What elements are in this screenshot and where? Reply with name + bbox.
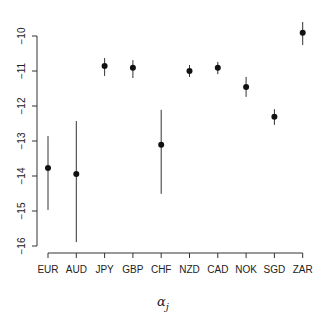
point-range-eur <box>45 136 51 210</box>
x-tick-label: AUD <box>66 264 87 275</box>
y-tick-label: −16 <box>16 237 27 254</box>
x-tick-label: CAD <box>207 264 228 275</box>
point-marker <box>187 68 193 74</box>
point-marker <box>215 65 221 71</box>
point-marker <box>271 114 277 120</box>
point-range-nok <box>243 77 249 97</box>
point-range-jpy <box>102 58 108 76</box>
point-marker <box>243 84 249 90</box>
y-tick-label: −11 <box>16 62 27 79</box>
point-range-zar <box>300 22 306 45</box>
data-points <box>45 22 306 242</box>
point-marker <box>130 65 136 71</box>
x-axis: EURAUDJPYGBPCHFNZDCADNOKSGDZAR <box>37 253 312 275</box>
y-tick-label: −10 <box>16 27 27 44</box>
point-range-gbp <box>130 60 136 78</box>
point-range-chf <box>158 110 164 194</box>
x-tick-label: NOK <box>235 264 257 275</box>
x-tick-label: NZD <box>179 264 200 275</box>
x-axis-label: αj <box>157 294 169 312</box>
y-axis: −10−11−12−13−14−15−16 <box>16 27 37 254</box>
x-tick-label: GBP <box>122 264 143 275</box>
x-tick-label: CHF <box>151 264 172 275</box>
x-tick-label: SGD <box>264 264 286 275</box>
point-marker <box>158 142 164 148</box>
point-range-sgd <box>271 109 277 125</box>
point-marker <box>45 165 51 171</box>
x-tick-label: ZAR <box>293 264 313 275</box>
y-tick-label: −14 <box>16 167 27 184</box>
x-tick-label: EUR <box>37 264 58 275</box>
x-tick-label: JPY <box>95 264 114 275</box>
point-range-aud <box>73 121 79 242</box>
point-marker <box>102 63 108 69</box>
point-marker <box>300 30 306 36</box>
point-range-nzd <box>187 65 193 77</box>
point-range-cad <box>215 62 221 74</box>
y-tick-label: −15 <box>16 202 27 219</box>
point-marker <box>73 171 79 177</box>
point-range-chart: −10−11−12−13−14−15−16 EURAUDJPYGBPCHFNZD… <box>0 0 327 322</box>
y-tick-label: −12 <box>16 97 27 114</box>
y-tick-label: −13 <box>16 132 27 149</box>
